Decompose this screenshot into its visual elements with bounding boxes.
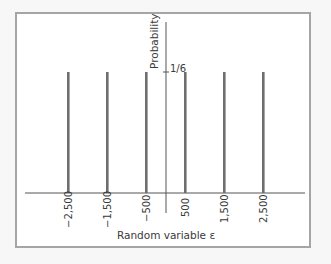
bar-neg-1500: [106, 72, 109, 193]
x-tick-label: 500: [180, 198, 191, 217]
x-tick-label: 2,500: [258, 194, 269, 223]
bar-1500: [223, 72, 226, 193]
x-tick-label: −2,500: [63, 191, 74, 228]
bar-500: [184, 72, 187, 193]
bar-neg-2500: [67, 72, 70, 193]
x-axis-title: Random variable ε: [117, 229, 215, 241]
pmf-chart: 1/6 Probability −2,500 −1,500 −500 500 1…: [0, 0, 331, 264]
y-tick-label: 1/6: [170, 63, 186, 74]
bar-2500: [262, 72, 265, 193]
x-tick-label: −500: [141, 195, 152, 222]
x-tick-label: −1,500: [102, 191, 113, 228]
y-axis-title: Probability: [148, 13, 160, 69]
bar-neg-500: [145, 72, 148, 193]
x-tick-label: 1,500: [219, 194, 230, 223]
